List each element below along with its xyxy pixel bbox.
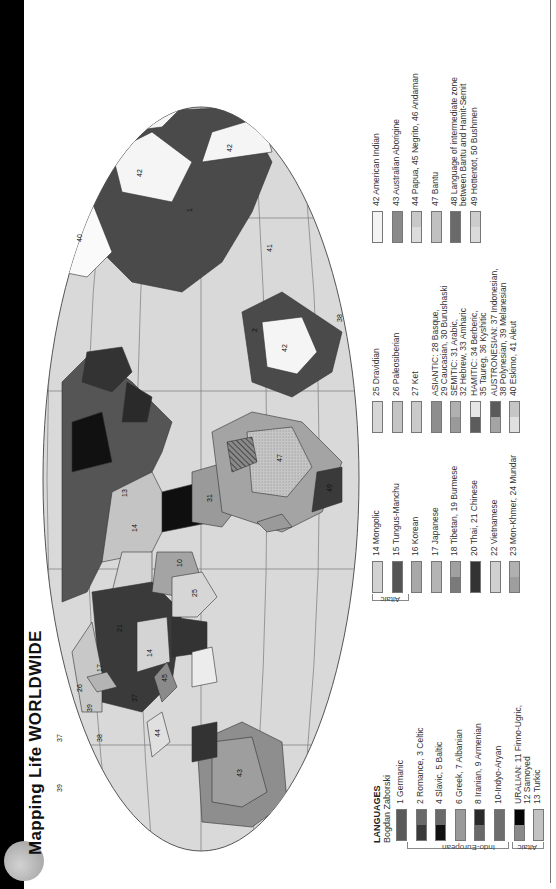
legend-swatch [372,561,383,593]
legend-item: 2 Romance, 3 Celtic [416,727,427,841]
legend-item: 18 Tibetan, 19 Burmese [450,466,461,593]
legend-swatch [450,401,461,433]
legend-label: 48 Language of intermediate zone between… [450,77,468,206]
legend-label: HAMITIC: 34 Berberic, 35 Taureg, 36 Kysh… [470,311,488,397]
legend-swatch [431,211,442,243]
map-label: 14 [146,649,153,657]
legend-label: SEMITIC: 31 Arabic, 32 Hebrew, 33 Amhari… [450,308,468,396]
map-label: 38 [96,734,103,742]
legend-item: 20 Thai, 21 Chinese [470,480,481,593]
legend-item: 16 Korean [411,517,422,593]
legend-item: 48 Language of intermediate zone between… [450,77,468,243]
legend-swatch [431,401,442,433]
legend-swatch [509,561,520,593]
header-bar [0,0,24,889]
legend-swatch [494,809,505,841]
legend-item: HAMITIC: 34 Berberic, 35 Taureg, 36 Kysh… [470,311,488,434]
legend-label: 2 Romance, 3 Celtic [416,727,425,804]
legend-swatch [392,211,403,243]
map-label: 41 [266,244,273,252]
legend-label: AUSTRONESIAN: 37 Indonesian, 38 Polynesi… [490,268,508,396]
map-label: 21 [116,624,123,632]
legend-swatch [396,809,407,841]
map-label: 42 [136,169,143,177]
legend-item: 43 Australian Aborigine [392,119,403,243]
legend-swatch [450,561,461,593]
legend-label: 22 Vietnamese [490,499,499,556]
legend-swatch [490,561,501,593]
legend-label: 25 Dravidian [372,348,381,396]
legend-item: 1 Germanic [396,760,407,841]
legend-item: 13 Turkic [533,770,544,842]
legend-label: 26 Paleosiberian [392,333,401,396]
legend-label: 42 American Indian [372,133,381,206]
legend-swatch [514,809,525,841]
frame-line [550,0,551,883]
map-label: 40 [76,234,83,242]
legend-item: 23 Mon-Khmer, 24 Mundar [509,455,520,593]
legend-item: 4 Slavic, 5 Baltic [435,742,446,841]
legend-item: URALIAN: 11 Finno-Ugric, 12 Samoyed [514,705,532,841]
legend-swatch [392,401,403,433]
map-label: 37 [131,694,138,702]
legend-label: URALIAN: 11 Finno-Ugric, 12 Samoyed [514,705,532,804]
legend-label: 20 Thai, 21 Chinese [470,480,479,556]
legend-item: 26 Paleosiberian [392,333,403,433]
legend-swatch [450,211,461,243]
map-label: 26 [76,684,83,692]
legend-item: 42 American Indian [372,133,383,243]
map-label: 45 [161,674,168,682]
legend-item: 17 Japanese [431,507,442,593]
legend-item: 25 Dravidian [372,348,383,433]
legend-item: 15 Tungus-Manchu [392,483,403,593]
legend-label: 40 Eskimo, 41 Aleut [509,321,518,396]
map-label: 42 [226,144,233,152]
legend-label: 14 Mongolic [372,510,381,556]
legend-swatch [392,561,403,593]
legend-swatch [470,561,481,593]
map-label: 14 [131,524,138,532]
legend-item: 22 Vietnamese [490,499,501,593]
legend-item: 10-Indyo-Aryan [494,746,505,841]
legend-label: 49 Hottentot, 50 Bushmen [470,107,479,206]
legend-label: 15 Tungus-Manchu [392,483,401,556]
legend-swatch [509,401,520,433]
legend-label: 47 Bantu [431,172,440,206]
map-label: 10 [176,559,183,567]
legend-swatch [416,809,427,841]
legend-label: 6 Greek, 7 Albanian [455,729,464,804]
legend-item: ASIANTIC: 28 Basque, 29 Caucasian, 30 Bu… [431,285,449,433]
map-label: 31 [206,494,213,502]
legend-title: LANGUAGES [372,775,382,843]
legend-label: ASIANTIC: 28 Basque, 29 Caucasian, 30 Bu… [431,285,449,396]
map-label: 37 [56,734,63,742]
legend-item: 27 Ket [411,371,422,433]
legend-label: 27 Ket [411,371,420,396]
legend-author: Bogdan Zaborski [382,775,392,843]
world-map: 42 42 1 40 42 2 11 13 14 14 21 10 25 31 … [42,106,360,852]
map-label: 43 [236,769,243,777]
altaic-label-1: Altaic [517,843,537,852]
legend-label: 18 Tibetan, 19 Burmese [450,466,459,556]
map-label: 44 [154,729,161,737]
legend-label: 17 Japanese [431,507,440,556]
map-label: 38 [336,314,343,322]
map-label: 17 [96,664,103,672]
legend-swatch [435,809,446,841]
legend-swatch [372,211,383,243]
legend-item: 14 Mongolic [372,510,383,593]
legend-item: 47 Bantu [431,172,442,243]
map-label: 47 [276,454,283,462]
indo-european-label: Indo-European [442,843,495,852]
legend-label: 4 Slavic, 5 Baltic [435,742,444,804]
altaic-label-2: Altaic [380,595,400,604]
legend-swatch [411,561,422,593]
legend-label: 8 Iranian, 9 Armenian [474,723,483,804]
legend-item: 8 Iranian, 9 Armenian [474,723,485,841]
map-page: Mapping Life WORLDWIDE [0,0,556,889]
legend-item: 49 Hottentot, 50 Bushmen [470,107,481,243]
legend-item: AUSTRONESIAN: 37 Indonesian, 38 Polynesi… [490,268,508,433]
legend-label: 16 Korean [411,517,420,556]
map-label: 13 [121,489,128,497]
legend-label: 10-Indyo-Aryan [494,746,503,804]
